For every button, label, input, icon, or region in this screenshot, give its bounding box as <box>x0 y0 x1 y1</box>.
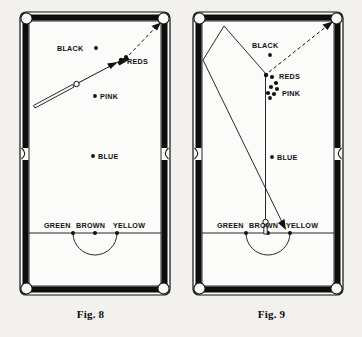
spot-black <box>268 53 272 57</box>
spot-pink <box>268 96 272 100</box>
pocket-bottom-left <box>194 283 205 294</box>
spot-pink <box>93 94 97 98</box>
red-ball <box>119 58 123 62</box>
label-blue: BLUE <box>277 153 298 162</box>
label-brown: BROWN <box>76 221 105 230</box>
figure-8-caption: Fig. 8 <box>0 308 181 320</box>
spot-brown <box>93 231 97 235</box>
pocket-top-right <box>158 13 169 24</box>
label-yellow: YELLOW <box>286 221 318 230</box>
figure-9-caption: Fig. 9 <box>181 308 362 320</box>
cushion-right-lower <box>162 160 168 288</box>
cushion-bottom <box>23 287 168 293</box>
spot-green <box>71 231 75 235</box>
cushion-right-lower <box>335 160 341 288</box>
spot-black <box>94 46 98 50</box>
spot-yellow <box>115 231 119 235</box>
label-blue: BLUE <box>98 152 119 161</box>
spot-yellow <box>288 231 292 235</box>
label-reds: REDS <box>279 72 300 81</box>
label-green: GREEN <box>217 221 244 230</box>
pocket-bottom-right <box>158 283 169 294</box>
label-pink: PINK <box>282 89 301 98</box>
label-black: BLACK <box>252 41 279 50</box>
label-brown: BROWN <box>249 221 278 230</box>
figure-8: BLACK REDS PINK BLUE GREEN BROWN YELLOW … <box>0 0 181 337</box>
cushion-top <box>23 15 168 21</box>
cushion-top <box>196 15 341 21</box>
red-ball <box>270 75 274 79</box>
label-black: BLACK <box>57 44 84 53</box>
label-pink: PINK <box>100 92 119 101</box>
pocket-bottom-left <box>21 283 32 294</box>
cushion-bottom <box>196 287 341 293</box>
red-ball <box>272 92 276 96</box>
red-ball <box>269 85 273 89</box>
cushion-left-upper <box>196 20 202 148</box>
cushion-right-upper <box>335 20 341 148</box>
table-outline <box>193 12 343 295</box>
contact-point <box>264 73 268 77</box>
cushion-left-upper <box>23 20 29 148</box>
label-yellow: YELLOW <box>113 221 145 230</box>
cue-ball <box>74 81 79 86</box>
table-frame <box>193 12 343 295</box>
spot-blue <box>91 154 95 158</box>
spot-blue <box>270 155 274 159</box>
red-ball <box>274 81 278 85</box>
fig-9-diagram: BLACK REDS PINK BLUE GREEN BROWN YELLOW <box>181 0 362 310</box>
label-green: GREEN <box>44 221 71 230</box>
cushion-right-upper <box>162 20 168 148</box>
spot-green <box>244 231 248 235</box>
cushion-left-lower <box>196 160 202 288</box>
pocket-top-right <box>331 13 342 24</box>
figure-pair: BLACK REDS PINK BLUE GREEN BROWN YELLOW … <box>0 0 362 337</box>
table-outline <box>20 12 170 295</box>
red-ball <box>275 87 279 91</box>
label-reds: REDS <box>127 57 148 66</box>
pocket-top-left <box>194 13 205 24</box>
cushion-left-lower <box>23 160 29 288</box>
red-ball <box>266 91 270 95</box>
pocket-top-left <box>21 13 32 24</box>
table-frame <box>20 12 170 295</box>
pocket-bottom-right <box>331 283 342 294</box>
figure-9: BLACK REDS PINK BLUE GREEN BROWN YELLOW … <box>181 0 362 337</box>
fig-8-diagram: BLACK REDS PINK BLUE GREEN BROWN YELLOW <box>0 0 181 310</box>
